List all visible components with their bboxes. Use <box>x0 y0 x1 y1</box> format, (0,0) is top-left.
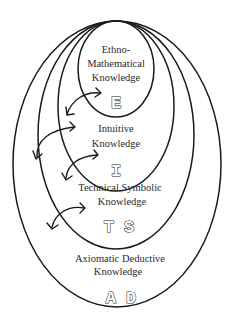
technical-label-line-1: Technical Symbolic <box>78 182 162 193</box>
technical-code: T S <box>104 218 135 237</box>
ethno-label-line-3: Knowledge <box>92 72 141 83</box>
axiomatic-label-line-2: Knowledge <box>94 266 143 277</box>
nested-knowledge-diagram: Ethno- Mathematical Knowledge E Intuitiv… <box>0 0 229 329</box>
arrow-e-to-i <box>66 88 101 115</box>
intuitive-code: I <box>111 162 121 181</box>
technical-label-line-2: Knowledge <box>98 196 147 207</box>
ethno-label-line-1: Ethno- <box>102 44 131 55</box>
arrow-i-to-ts <box>62 150 98 180</box>
ethno-label-line-2: Mathematical <box>87 58 145 69</box>
axiomatic-code: A D <box>106 289 137 308</box>
axiomatic-label-line-1: Axiomatic Deductive <box>75 253 165 264</box>
arrow-ts-to-ad <box>47 203 85 229</box>
intuitive-label-line-2: Knowledge <box>92 138 141 149</box>
ethno-code: E <box>111 94 121 113</box>
intuitive-label-line-1: Intuitive <box>98 123 134 134</box>
